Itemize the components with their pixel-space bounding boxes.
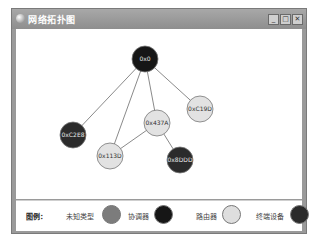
legend-label-unknown: 未知类型 xyxy=(66,211,94,221)
legend-label-router: 路由器 xyxy=(196,211,217,221)
title-bar[interactable]: 网络拓扑图 _ □ ✕ xyxy=(12,9,306,29)
legend-swatch-router xyxy=(222,205,241,224)
node-label: 0x8DDD xyxy=(167,156,192,163)
legend-title: 图例： xyxy=(26,211,47,221)
topology-node-end-device[interactable]: 0xC2E8 xyxy=(60,122,86,148)
node-label: 0xC2E8 xyxy=(62,131,85,138)
topology-node-router[interactable]: 0xC19D xyxy=(187,96,213,122)
window-title: 网络拓扑图 xyxy=(28,13,76,26)
close-button[interactable]: ✕ xyxy=(292,14,303,25)
legend-swatch-coordinator xyxy=(154,205,173,224)
topology-window: 网络拓扑图 _ □ ✕ 0x00xC2E80x437A0xC19D0x113D0… xyxy=(11,8,307,234)
topology-canvas: 0x00xC2E80x437A0xC19D0x113D0x8DDD xyxy=(16,29,302,199)
topology-graph: 0x00xC2E80x437A0xC19D0x113D0x8DDD xyxy=(16,29,302,199)
legend-label-end-device: 终端设备 xyxy=(256,211,284,221)
legend-label-coordinator: 协调器 xyxy=(128,211,149,221)
topology-edge xyxy=(73,59,145,135)
topology-node-coordinator[interactable]: 0x0 xyxy=(132,46,158,72)
maximize-button[interactable]: □ xyxy=(280,14,291,25)
legend-swatch-unknown xyxy=(102,205,121,224)
node-label: 0x0 xyxy=(139,55,150,62)
app-icon xyxy=(16,14,25,23)
topology-node-end-device[interactable]: 0x8DDD xyxy=(167,147,193,173)
node-label: 0xC19D xyxy=(188,105,212,112)
node-label: 0x113D xyxy=(98,152,122,159)
topology-node-router[interactable]: 0x113D xyxy=(97,143,123,169)
minimize-button[interactable]: _ xyxy=(268,14,279,25)
node-label: 0x437A xyxy=(146,119,170,126)
topology-edge xyxy=(110,59,145,156)
topology-node-router[interactable]: 0x437A xyxy=(144,110,170,136)
legend-swatch-end-device xyxy=(290,205,309,224)
legend: 图例： 未知类型 协调器 路由器 终端设备 xyxy=(16,200,302,231)
